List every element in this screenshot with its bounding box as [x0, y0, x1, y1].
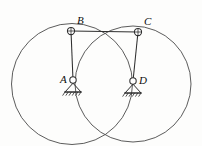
point-label-d: D [139, 75, 147, 86]
joint-b [67, 27, 74, 34]
point-label-a: A [60, 74, 67, 85]
link-bc [71, 31, 138, 32]
point-label-c: C [144, 16, 151, 27]
link-dc [133, 32, 138, 81]
point-label-b: B [77, 15, 84, 26]
mechanism-figure: B C A D [0, 0, 202, 146]
joint-c [134, 28, 141, 35]
link-ab [71, 31, 73, 80]
figure-canvas [0, 0, 202, 146]
